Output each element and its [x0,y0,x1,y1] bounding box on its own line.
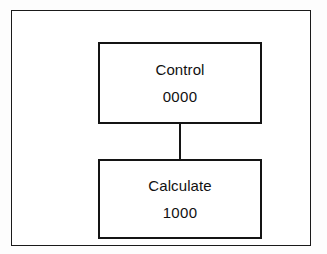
outer-enclosure-frame: Control 0000 Calculate 1000 [11,10,311,246]
connector-control-to-calculate [179,123,181,160]
node-calculate-title: Calculate [148,177,211,194]
node-calculate-value: 1000 [163,204,198,221]
diagram-canvas: Control 0000 Calculate 1000 [0,0,327,254]
node-control[interactable]: Control 0000 [98,42,262,124]
node-control-title: Control [155,61,204,78]
node-calculate[interactable]: Calculate 1000 [98,159,262,239]
node-control-value: 0000 [163,88,198,105]
